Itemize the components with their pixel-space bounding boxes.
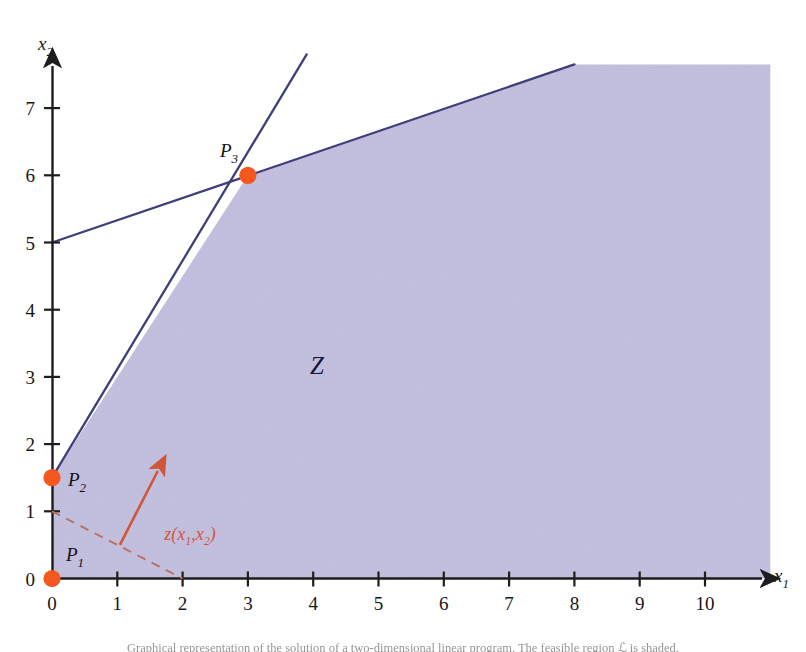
x-tick-label: 6: [439, 593, 449, 614]
x-tick-label: 3: [243, 593, 253, 614]
vertex-point-p3: [239, 167, 256, 184]
x-tick-label: 5: [374, 593, 384, 614]
vertex-point-p1: [43, 570, 60, 587]
figure-caption: Graphical representation of the solution…: [0, 641, 806, 652]
y-tick-label: 3: [26, 367, 36, 388]
y-tick-label: 5: [26, 233, 36, 254]
feasible-region-plot: 012345678910 01234567 x1 x2 z(x1,x2) Z P…: [0, 0, 806, 652]
vertex-point-p2: [43, 469, 60, 486]
y-tick-label: 4: [26, 300, 36, 321]
x-axis-tick-labels: 012345678910: [47, 593, 714, 614]
y-tick-label: 7: [26, 98, 36, 119]
x-tick-label: 9: [635, 593, 645, 614]
x-tick-label: 1: [113, 593, 123, 614]
y-tick-label: 1: [26, 501, 36, 522]
y-tick-label: 0: [26, 569, 36, 590]
region-label-Z: Z: [310, 352, 325, 379]
y-axis-tick-labels: 01234567: [26, 98, 36, 589]
figure-container: 012345678910 01234567 x1 x2 z(x1,x2) Z P…: [0, 0, 806, 652]
x-tick-label: 4: [308, 593, 318, 614]
y-tick-label: 2: [26, 434, 36, 455]
x-tick-label: 7: [504, 593, 514, 614]
x-axis-label: x1: [773, 565, 789, 591]
x-tick-label: 2: [178, 593, 188, 614]
x-tick-label: 10: [696, 593, 715, 614]
feasible-region-Z: [52, 64, 770, 578]
x-tick-label: 8: [570, 593, 580, 614]
y-axis-label: x2: [37, 33, 53, 59]
y-tick-label: 6: [26, 165, 36, 186]
vertex-label-p3: P3: [219, 140, 239, 166]
x-tick-label: 0: [47, 593, 57, 614]
